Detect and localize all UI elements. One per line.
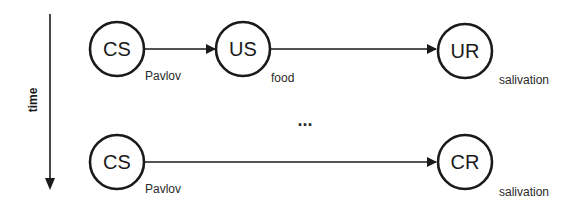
node-caption: Pavlov xyxy=(145,182,181,196)
node-label: UR xyxy=(451,40,480,62)
time-axis-label: time xyxy=(26,87,40,112)
node-caption: salivation xyxy=(499,73,549,87)
node-cr-2: CR salivation xyxy=(438,135,549,199)
node-label: CS xyxy=(103,38,131,60)
node-ur-1: UR salivation xyxy=(438,24,549,87)
node-caption: food xyxy=(271,71,294,85)
ellipsis: ... xyxy=(297,110,312,130)
time-axis-arrow-icon xyxy=(45,178,55,190)
time-axis: time xyxy=(26,14,55,190)
node-label: US xyxy=(229,38,257,60)
node-cs-1: CS Pavlov xyxy=(90,22,181,83)
node-us-1: US food xyxy=(216,22,294,85)
node-label: CR xyxy=(451,151,480,173)
node-cs-2: CS Pavlov xyxy=(90,135,181,196)
node-caption: Pavlov xyxy=(145,69,181,83)
node-caption: salivation xyxy=(499,185,549,199)
node-label: CS xyxy=(103,151,131,173)
conditioning-diagram: time CS Pavlov US food UR salivation ...… xyxy=(0,0,588,209)
